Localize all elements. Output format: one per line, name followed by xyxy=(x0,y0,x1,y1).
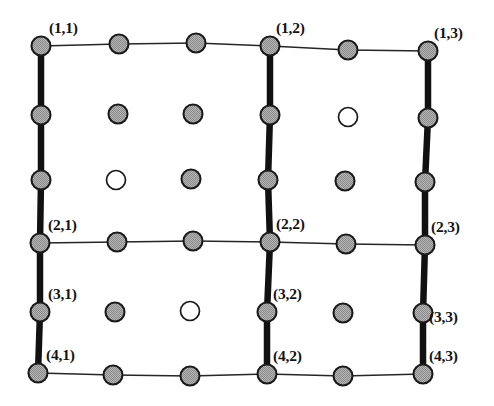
node-label-21: (2,1) xyxy=(48,217,77,233)
filled-node[interactable] xyxy=(181,367,200,386)
thin-edge xyxy=(270,46,348,50)
open-node[interactable] xyxy=(339,108,358,127)
filled-node[interactable] xyxy=(31,234,50,253)
filled-node[interactable] xyxy=(334,367,353,386)
thin-edge xyxy=(117,241,193,242)
thin-edge xyxy=(193,241,270,242)
filled-node[interactable] xyxy=(261,233,280,252)
filled-node[interactable] xyxy=(29,364,48,383)
thin-edge xyxy=(190,374,267,376)
node-label-13: (1,3) xyxy=(434,25,463,41)
thin-edge xyxy=(40,242,117,243)
filled-node[interactable] xyxy=(187,34,206,53)
open-node[interactable] xyxy=(181,302,200,321)
thin-edge xyxy=(119,43,196,44)
filled-node[interactable] xyxy=(109,105,128,124)
filled-node[interactable] xyxy=(184,232,203,251)
filled-node[interactable] xyxy=(184,105,203,124)
node-layer xyxy=(29,34,438,386)
filled-node[interactable] xyxy=(32,37,51,56)
node-label-23: (2,3) xyxy=(431,219,460,235)
filled-node[interactable] xyxy=(339,41,358,60)
thin-edge xyxy=(346,244,425,245)
filled-node[interactable] xyxy=(416,236,435,255)
filled-node[interactable] xyxy=(261,106,280,125)
open-node[interactable] xyxy=(107,171,126,190)
filled-node[interactable] xyxy=(258,365,277,384)
filled-node[interactable] xyxy=(419,109,438,128)
filled-node[interactable] xyxy=(104,366,123,385)
filled-node[interactable] xyxy=(32,106,51,125)
filled-node[interactable] xyxy=(106,303,125,322)
node-label-31: (3,1) xyxy=(48,286,77,302)
thin-edge xyxy=(270,242,346,244)
node-label-33: (3,3) xyxy=(429,309,458,325)
node-label-42: (4,2) xyxy=(273,348,302,364)
filled-node[interactable] xyxy=(31,303,50,322)
thin-edge xyxy=(38,373,113,375)
node-label-43: (4,3) xyxy=(429,348,458,364)
thin-edge xyxy=(267,374,343,376)
filled-node[interactable] xyxy=(336,172,355,191)
thin-edge xyxy=(196,43,270,46)
filled-node[interactable] xyxy=(108,233,127,252)
filled-node[interactable] xyxy=(258,303,277,322)
filled-node[interactable] xyxy=(334,304,353,323)
filled-node[interactable] xyxy=(32,171,51,190)
filled-node[interactable] xyxy=(337,235,356,254)
node-label-41: (4,1) xyxy=(46,347,75,363)
node-label-12: (1,2) xyxy=(276,20,305,36)
thin-edge xyxy=(113,375,190,376)
filled-node[interactable] xyxy=(416,173,435,192)
filled-node[interactable] xyxy=(261,37,280,56)
filled-node[interactable] xyxy=(110,35,129,54)
filled-node[interactable] xyxy=(419,42,438,61)
filled-node[interactable] xyxy=(259,171,278,190)
node-label-11: (1,1) xyxy=(49,20,78,36)
node-label-22: (2,2) xyxy=(276,216,305,232)
thick-edge-layer xyxy=(38,46,428,374)
lattice-diagram-canvas: (1,1)(1,2)(1,3)(2,1)(2,2)(2,3)(3,1)(3,2)… xyxy=(0,0,494,406)
thin-edge xyxy=(348,50,428,51)
thin-edge xyxy=(343,374,423,376)
thin-edge xyxy=(41,44,119,46)
thin-edge-layer xyxy=(38,43,428,376)
filled-node[interactable] xyxy=(182,170,201,189)
filled-node[interactable] xyxy=(414,365,433,384)
node-label-32: (3,2) xyxy=(273,286,302,302)
